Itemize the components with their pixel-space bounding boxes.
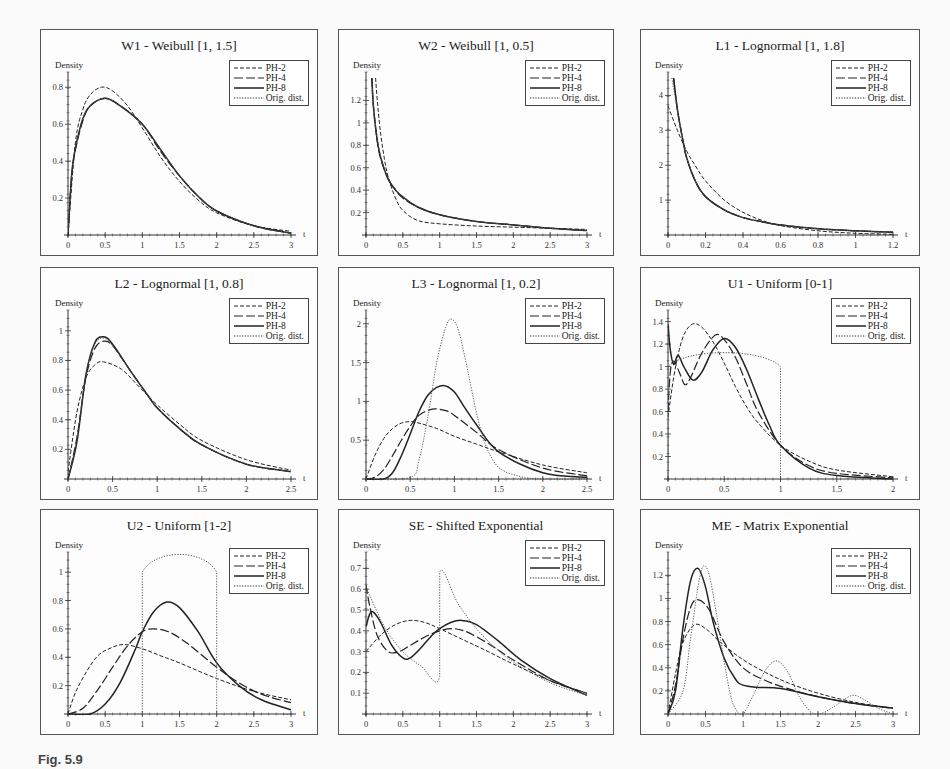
y-tick-label: 2 — [659, 160, 663, 170]
x-tick-label: 2 — [215, 719, 219, 729]
y-tick-label: 0.2 — [652, 452, 663, 462]
x-tick-label: 0.5 — [398, 719, 409, 729]
x-tick-label: 1 — [853, 240, 857, 250]
legend-label: PH-4 — [868, 73, 888, 83]
chart-panel-u1: U1 - Uniform [0-1]Density00.511.52t0.20.… — [640, 267, 920, 500]
legend-label: PH-2 — [266, 551, 286, 561]
series-ph-4 — [68, 98, 291, 235]
series-ph-4 — [68, 341, 291, 479]
y-tick-label: 0.8 — [652, 617, 663, 627]
y-tick-label: 0.8 — [350, 140, 361, 150]
legend-line-swatch — [530, 333, 560, 339]
legend-line-swatch — [234, 333, 264, 339]
y-tick-label: 1 — [59, 567, 63, 577]
series-ph-4 — [68, 629, 291, 714]
y-tick-label: 0.8 — [52, 355, 63, 365]
y-tick-label: 1.2 — [652, 570, 663, 580]
legend-line-swatch — [530, 555, 560, 561]
x-tick-label: 1.5 — [174, 719, 185, 729]
chart-legend: PH-2PH-4PH-8Orig. dist. — [831, 298, 911, 344]
legend-label: PH-2 — [868, 301, 888, 311]
legend-entry: Orig. dist. — [836, 93, 906, 103]
y-tick-label: 1 — [659, 362, 663, 372]
x-tick-label: 1 — [741, 719, 745, 729]
y-tick-label: 1 — [357, 396, 361, 406]
legend-entry: PH-2 — [836, 551, 906, 561]
legend-line-swatch — [234, 85, 264, 91]
x-tick-label: 2.5 — [582, 484, 593, 494]
legend-line-swatch — [234, 583, 264, 589]
series-orig-dist — [68, 338, 291, 479]
y-tick-label: 0.7 — [350, 563, 361, 573]
y-tick-label: 1 — [659, 195, 663, 205]
y-tick-label: 0.4 — [350, 626, 361, 636]
legend-entry: PH-4 — [836, 561, 906, 571]
y-tick-label: 0.4 — [350, 185, 361, 195]
legend-label: PH-4 — [868, 561, 888, 571]
legend-entry: PH-2 — [234, 551, 304, 561]
legend-line-swatch — [234, 95, 264, 101]
x-axis-label: t — [303, 229, 306, 239]
x-tick-label: 1.5 — [775, 719, 786, 729]
legend-entry: Orig. dist. — [530, 573, 600, 583]
legend-line-swatch — [234, 303, 264, 309]
legend-label: PH-4 — [562, 311, 582, 321]
series-ph-4 — [668, 600, 893, 714]
x-tick-label: 1 — [778, 484, 782, 494]
x-tick-label: 2 — [244, 484, 248, 494]
y-tick-label: 0.6 — [652, 640, 663, 650]
chart-legend: PH-2PH-4PH-8Orig. dist. — [229, 548, 309, 594]
legend-label: Orig. dist. — [266, 331, 304, 341]
x-tick-label: 1.5 — [196, 484, 207, 494]
chart-legend: PH-2PH-4PH-8Orig. dist. — [525, 540, 605, 586]
legend-label: PH-8 — [562, 563, 582, 573]
legend-label: Orig. dist. — [266, 581, 304, 591]
x-tick-label: 3 — [585, 719, 589, 729]
legend-label: Orig. dist. — [868, 331, 906, 341]
legend-label: Orig. dist. — [868, 581, 906, 591]
legend-entry: PH-8 — [530, 321, 600, 331]
x-tick-label: 2 — [511, 240, 515, 250]
legend-line-swatch — [836, 75, 866, 81]
legend-line-swatch — [530, 545, 560, 551]
y-tick-label: 0.8 — [52, 596, 63, 606]
legend-entry: PH-2 — [530, 543, 600, 553]
x-tick-label: 2.5 — [545, 240, 556, 250]
x-tick-label: 0 — [364, 484, 368, 494]
legend-line-swatch — [530, 85, 560, 91]
x-tick-label: 1 — [438, 240, 442, 250]
chart-panel-w2: W2 - Weibull [1, 0.5]Density00.511.522.5… — [338, 29, 614, 256]
legend-label: PH-8 — [562, 83, 582, 93]
y-tick-label: 1.4 — [652, 317, 663, 327]
legend-label: PH-8 — [868, 571, 888, 581]
x-tick-label: 2 — [215, 240, 219, 250]
x-tick-label: 1 — [438, 719, 442, 729]
x-tick-label: 1.5 — [831, 484, 842, 494]
y-tick-label: 0.4 — [52, 415, 63, 425]
legend-entry: PH-2 — [234, 63, 304, 73]
legend-line-swatch — [234, 65, 264, 71]
chart-legend: PH-2PH-4PH-8Orig. dist. — [831, 548, 911, 594]
legend-label: PH-2 — [266, 301, 286, 311]
y-tick-label: 0.8 — [652, 384, 663, 394]
legend-label: PH-4 — [266, 73, 286, 83]
legend-entry: Orig. dist. — [234, 331, 304, 341]
legend-entry: PH-8 — [234, 83, 304, 93]
legend-entry: PH-2 — [530, 301, 600, 311]
series-ph-2 — [68, 645, 291, 715]
caption-label: Fig. 5.9 — [38, 752, 83, 767]
x-tick-label: 0 — [364, 719, 368, 729]
x-tick-label: 0.5 — [405, 484, 416, 494]
y-tick-label: 4 — [659, 90, 664, 100]
legend-entry: PH-2 — [836, 63, 906, 73]
legend-entry: PH-4 — [234, 311, 304, 321]
x-tick-label: 0.5 — [107, 484, 118, 494]
legend-line-swatch — [836, 333, 866, 339]
x-tick-label: 1 — [140, 240, 144, 250]
legend-label: PH-2 — [868, 63, 888, 73]
legend-line-swatch — [530, 565, 560, 571]
x-tick-label: 0.4 — [738, 240, 749, 250]
legend-label: PH-4 — [266, 311, 286, 321]
y-tick-label: 0.2 — [652, 686, 663, 696]
series-orig-dist — [68, 98, 291, 235]
